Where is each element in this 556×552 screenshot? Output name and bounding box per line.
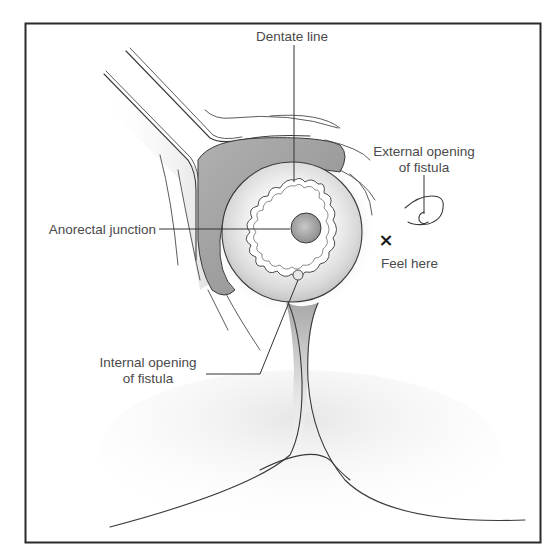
label-external-opening-2: of fistula xyxy=(399,160,450,175)
label-internal-opening-2: of fistula xyxy=(123,371,174,386)
internal-opening-marker xyxy=(293,270,303,280)
label-anorectal-junction: Anorectal junction xyxy=(49,222,156,237)
label-external-opening-1: External opening xyxy=(373,144,474,159)
label-dentate-line: Dentate line xyxy=(256,29,328,44)
label-feel-here: Feel here xyxy=(381,256,438,271)
feel-here-marker: × xyxy=(378,229,393,250)
anal-fistula-diagram: × Dentate line Anorectal junction Extern… xyxy=(0,0,556,552)
anal-lumen xyxy=(291,213,321,243)
label-internal-opening-1: Internal opening xyxy=(100,355,197,370)
